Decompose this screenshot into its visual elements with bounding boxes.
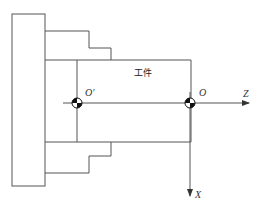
z-axis-label: Z (243, 89, 249, 99)
origin-workpiece-label: O (199, 88, 206, 98)
origin-symbol-chuck-icon (72, 98, 82, 108)
diagram-svg (0, 0, 262, 208)
lower-jaw (45, 142, 111, 173)
chuck-body (12, 14, 45, 186)
workpiece-label: 工件 (134, 69, 152, 78)
lathe-coordinate-diagram: 工件 O′ O Z X (0, 0, 262, 208)
workpiece-outline (45, 60, 191, 142)
x-axis-label: X (195, 190, 201, 200)
origin-symbol-workpiece-icon (185, 98, 195, 108)
origin-chuck-label: O′ (85, 88, 94, 98)
upper-jaw (45, 31, 111, 60)
